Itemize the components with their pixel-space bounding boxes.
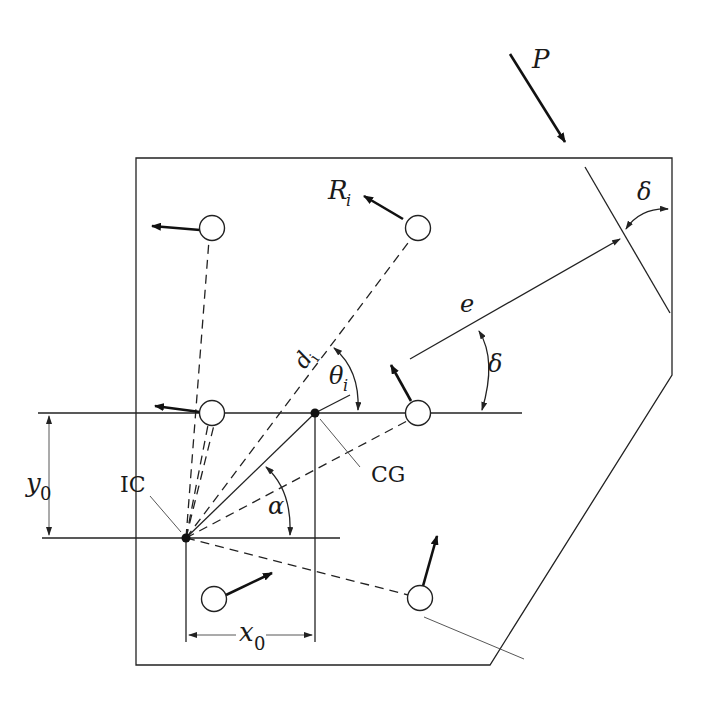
radius-to-b3 (186, 425, 208, 538)
x0-subscript: 0 (254, 633, 265, 654)
eccentricity-line (410, 239, 620, 359)
alpha-label: α (268, 492, 284, 520)
force-b6 (423, 536, 437, 586)
force-b1 (152, 226, 200, 230)
bolt-5[interactable] (202, 587, 227, 612)
bolt-force-label: R (327, 175, 348, 205)
force-b2 (364, 196, 403, 219)
bolt-1[interactable] (200, 216, 225, 241)
radius-to-b6 (186, 538, 408, 595)
bolt-4[interactable] (406, 401, 431, 426)
bolt-6[interactable] (408, 586, 433, 611)
load-p-label: P (531, 44, 550, 74)
ic-point[interactable] (182, 534, 191, 543)
y0-subscript: 0 (40, 483, 51, 504)
reference-line-bottom-right (424, 617, 524, 659)
ic-to-cg-line (186, 413, 315, 538)
bolt-3[interactable] (200, 401, 225, 426)
bolt-2[interactable] (406, 216, 431, 241)
radius-to-b2 (186, 239, 411, 538)
cg-point[interactable] (311, 409, 320, 418)
force-b5 (226, 573, 272, 595)
x0-label: x (239, 617, 254, 647)
theta-label: θ (329, 362, 344, 390)
force-b4 (391, 365, 411, 401)
bolt-force-subscript: i (346, 191, 351, 210)
delta-top-label: δ (637, 178, 651, 206)
bolt-group-diagram: y 0 x 0 P e δ δ θ i α d i R i (0, 0, 712, 705)
ic-leader (150, 496, 181, 532)
delta-mid-label: δ (488, 350, 502, 378)
y0-label: y (25, 468, 41, 498)
theta-subscript: i (343, 376, 348, 395)
eccentricity-label: e (460, 290, 474, 318)
ic-label: IC (120, 472, 146, 497)
cg-leader (320, 419, 360, 467)
cg-label: CG (371, 462, 405, 487)
line-of-action (585, 167, 670, 313)
radius-to-b3b (186, 425, 214, 538)
delta-top-arc (626, 209, 668, 229)
cg-extension-line (315, 395, 350, 413)
force-b3 (155, 406, 200, 412)
